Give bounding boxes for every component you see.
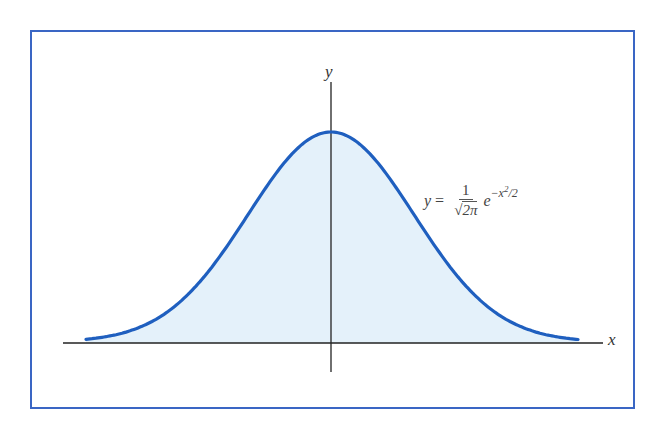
formula-equals: = <box>435 192 444 210</box>
formula-exponent: −x2/2 <box>491 184 518 201</box>
formula-radicand: 2π <box>462 201 477 218</box>
formula-fraction: 1 √2π <box>454 183 477 219</box>
formula-numerator: 1 <box>459 183 473 200</box>
y-axis-label: y <box>325 62 333 82</box>
formula-base: e <box>483 192 490 210</box>
formula-denominator: √2π <box>454 200 477 219</box>
density-formula: y = 1 √2π e −x2/2 <box>424 183 518 219</box>
x-axis-label: x <box>608 330 616 350</box>
formula-lhs: y <box>424 192 431 210</box>
